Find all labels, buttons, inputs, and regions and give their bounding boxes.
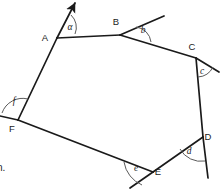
vertex-label-A: A xyxy=(42,32,49,43)
angle-b-label: b xyxy=(141,25,146,35)
angle-d-label: d xyxy=(187,146,192,156)
ray-A-arrow xyxy=(57,3,75,38)
side-EF xyxy=(18,120,153,172)
angle-f-label: f xyxy=(13,96,17,106)
ray-D-extension xyxy=(203,137,208,178)
vertex-label-D: D xyxy=(205,131,212,142)
ray-F-extension xyxy=(0,116,18,120)
vertex-label-B: B xyxy=(113,16,119,27)
polygon-sides xyxy=(18,35,203,172)
side-FA xyxy=(18,38,57,120)
corner-caption-fragment: n. xyxy=(0,162,5,173)
angle-arcs xyxy=(2,15,213,185)
vertex-label-C: C xyxy=(189,41,196,52)
side-BC xyxy=(120,35,196,58)
diagram-canvas: αbcdef ABCDEF n. xyxy=(0,0,221,190)
side-AB xyxy=(57,35,120,38)
angle-alpha-label: α xyxy=(68,22,74,32)
vertex-label-E: E xyxy=(155,166,161,177)
extension-rays xyxy=(0,3,219,188)
hexagon-figure: αbcdef ABCDEF xyxy=(0,0,221,190)
angle-labels: αbcdef xyxy=(13,22,205,173)
vertex-label-F: F xyxy=(9,123,15,134)
angle-e-label: e xyxy=(134,163,138,173)
angle-c-label: c xyxy=(200,66,205,76)
